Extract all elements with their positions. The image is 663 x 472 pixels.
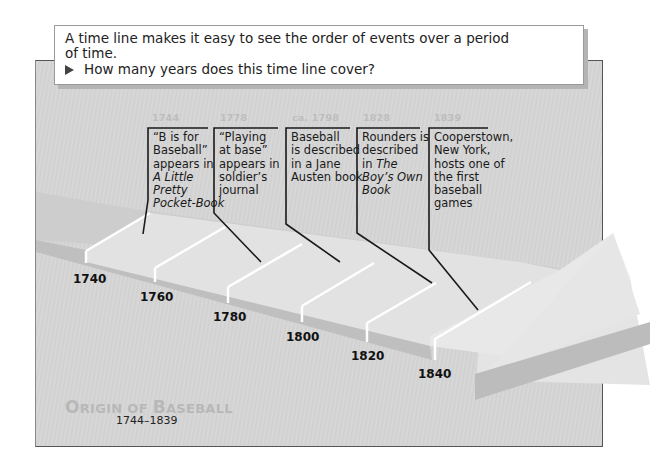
event-year-2: 1778 (220, 112, 247, 123)
event-text-1: “B is for Baseball” appears in A Little … (153, 131, 224, 211)
scale-label-1820: 1820 (351, 349, 384, 363)
scale-label-1800: 1800 (286, 330, 319, 344)
event-text-2: “Playing at base” appears in soldier’s j… (219, 131, 280, 197)
scale-label-1840: 1840 (418, 367, 451, 381)
event-text-5: Cooperstown, New York, hosts one of the … (434, 131, 513, 211)
scale-label-1780: 1780 (213, 310, 246, 324)
event-year-3: ca. 1798 (292, 112, 339, 123)
event-year-4: 1828 (363, 112, 390, 123)
scale-label-1740: 1740 (73, 272, 106, 286)
scale-label-1760: 1760 (140, 290, 173, 304)
timeline-date-range: 1744–1839 (116, 414, 178, 427)
event-year-5: 1839 (434, 112, 461, 123)
event-year-1: 1744 (152, 112, 179, 123)
event-text-3: Baseball is described in a Jane Austen b… (291, 131, 363, 184)
event-text-4: Rounders is described in The Boy’s Own B… (362, 131, 429, 197)
